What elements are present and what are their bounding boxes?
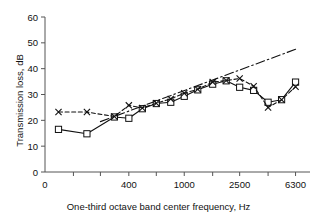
transmission-loss-chart: 01020304050600400100025006300 One-third … bbox=[0, 0, 317, 222]
y-axis-title: Transmission loss, dB bbox=[14, 26, 25, 176]
plot-area: 01020304050600400100025006300 bbox=[0, 0, 317, 222]
x-axis-title: One-third octave band center frequency, … bbox=[0, 201, 317, 212]
tick-labels: 01020304050600400100025006300 bbox=[27, 12, 306, 191]
svg-text:20: 20 bbox=[27, 115, 38, 126]
svg-text:2500: 2500 bbox=[229, 179, 250, 190]
svg-text:400: 400 bbox=[121, 179, 137, 190]
axes bbox=[45, 17, 310, 172]
svg-text:60: 60 bbox=[27, 12, 38, 23]
svg-text:30: 30 bbox=[27, 89, 38, 100]
svg-text:0: 0 bbox=[42, 179, 47, 190]
svg-text:40: 40 bbox=[27, 63, 38, 74]
svg-text:0: 0 bbox=[33, 167, 38, 178]
svg-text:6300: 6300 bbox=[285, 179, 306, 190]
svg-text:1000: 1000 bbox=[174, 179, 195, 190]
svg-text:50: 50 bbox=[27, 37, 38, 48]
svg-text:10: 10 bbox=[27, 141, 38, 152]
data-series bbox=[55, 49, 298, 137]
